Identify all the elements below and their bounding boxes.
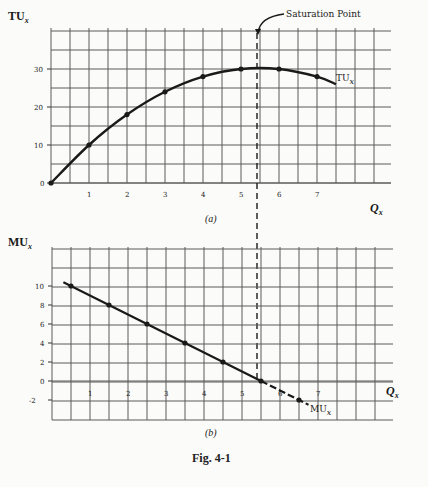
tu-curve-label: TUx xyxy=(336,73,355,86)
svg-text:2: 2 xyxy=(126,390,130,398)
svg-text:1: 1 xyxy=(88,390,92,398)
svg-text:7: 7 xyxy=(316,390,320,398)
svg-text:2: 2 xyxy=(40,359,44,367)
svg-text:0: 0 xyxy=(40,378,44,386)
q-axis-label-a: Qx xyxy=(370,201,383,217)
tu-axis-label: TUx xyxy=(8,9,29,25)
svg-text:8: 8 xyxy=(40,302,44,310)
svg-text:4: 4 xyxy=(40,340,45,348)
svg-text:30: 30 xyxy=(34,66,43,74)
svg-text:4: 4 xyxy=(201,191,206,199)
svg-text:6: 6 xyxy=(277,191,282,199)
figure-canvas: 12345670102030 TUx Qx Saturation Point T… xyxy=(0,0,428,487)
mu-curve-solid xyxy=(63,282,261,381)
q-axis-label-b: Qx xyxy=(386,384,399,400)
svg-text:5: 5 xyxy=(240,390,244,398)
svg-text:20: 20 xyxy=(34,104,43,112)
mu-axis-label: MUx xyxy=(8,235,32,251)
mu-curve-label: MUx xyxy=(310,404,332,417)
mu-chart: 1234567-20246810 MUx Qx MUx (b) xyxy=(8,235,399,439)
svg-text:10: 10 xyxy=(34,142,43,150)
figure-caption: Fig. 4-1 xyxy=(192,451,231,465)
panel-b-label: (b) xyxy=(205,427,217,439)
svg-text:7: 7 xyxy=(315,191,319,199)
svg-text:4: 4 xyxy=(202,390,207,398)
saturation-point-label: Saturation Point xyxy=(286,9,361,19)
svg-text:6: 6 xyxy=(40,321,45,329)
svg-text:0: 0 xyxy=(40,180,44,188)
mu-grid xyxy=(52,247,393,420)
svg-text:1: 1 xyxy=(87,191,91,199)
svg-text:3: 3 xyxy=(164,390,168,398)
tu-grid xyxy=(51,28,391,183)
svg-text:2: 2 xyxy=(125,191,129,199)
svg-text:-2: -2 xyxy=(29,397,36,405)
panel-a-label: (a) xyxy=(205,213,217,225)
svg-text:5: 5 xyxy=(239,191,243,199)
tu-chart: 12345670102030 TUx Qx Saturation Point T… xyxy=(8,9,391,225)
svg-text:10: 10 xyxy=(35,283,44,291)
saturation-arrow xyxy=(258,14,284,33)
svg-text:3: 3 xyxy=(163,191,167,199)
